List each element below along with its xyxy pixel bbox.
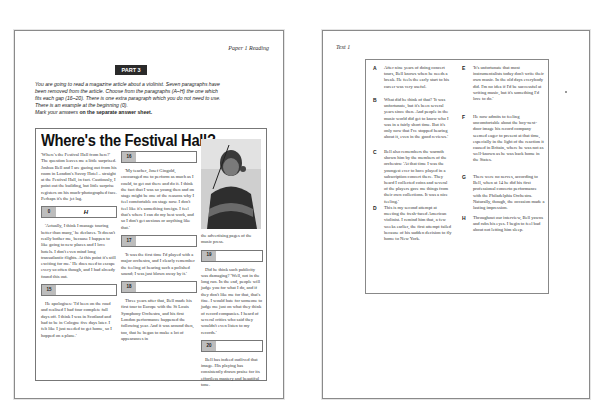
option-H: H Throughout our interview, Bell yawns a…: [473, 215, 545, 234]
option-letter: H: [462, 215, 466, 221]
gap-answer-slot[interactable]: [216, 251, 262, 261]
option-text: There were no nerves, according to Bell,…: [473, 174, 545, 210]
option-A: A After nine years of doing concert tour…: [384, 65, 452, 90]
stray-mark: [565, 91, 567, 93]
article-paragraph: Three years after that, Bell made his fi…: [121, 298, 197, 342]
option-letter: A: [373, 65, 377, 71]
gap-15[interactable]: 15: [41, 284, 117, 296]
gap-answer-slot[interactable]: [136, 152, 196, 162]
article: Where's the Festival Hall? 'Where's the …: [35, 128, 267, 381]
article-paragraph: 'Actually, I think I manage touring bett…: [41, 223, 117, 280]
article-column-2: 16 'My teacher, Josef Gingold, encourage…: [121, 139, 197, 344]
gap-number: 20: [202, 341, 216, 351]
gap-number: 18: [122, 282, 136, 292]
option-D: D This is my second attempt at meeting t…: [384, 205, 452, 242]
gap-answer-slot[interactable]: [136, 236, 196, 246]
gap-20[interactable]: 20: [201, 340, 263, 352]
gap-answer-slot[interactable]: [56, 285, 116, 295]
article-column-1: 'Where's the Festival Hall from here?' T…: [41, 152, 117, 341]
option-letter: B: [373, 97, 377, 103]
gap-answer-slot[interactable]: [136, 282, 196, 292]
option-text: Bell also remembers the warmth shown him…: [384, 149, 448, 204]
instructions: You are going to read a magazine article…: [35, 81, 245, 116]
page-right: Text 1 A After nine years of doing conce…: [322, 30, 590, 399]
article-paragraph: 'My teacher, Josef Gingold, encouraged m…: [121, 168, 197, 231]
option-G: G There were no nerves, according to Bel…: [473, 174, 545, 211]
gap-answer-slot[interactable]: [216, 341, 262, 351]
option-text: Throughout our interview, Bell yawns and…: [473, 215, 543, 232]
option-letter: F: [462, 114, 465, 120]
option-E: E 'It's unfortunate that most instrument…: [473, 65, 545, 102]
part-label: PART 3: [115, 65, 147, 75]
instructions-line: been removed from the article. Choose fr…: [35, 88, 245, 95]
article-paragraph: Did he think such publicity was damaging…: [201, 267, 263, 336]
option-letter: E: [462, 65, 465, 71]
article-paragraph: 'It was the first time I'd played with a…: [121, 252, 197, 277]
violinist-image-icon: [201, 139, 261, 229]
gap-number: 15: [42, 285, 56, 295]
option-letter: C: [373, 149, 377, 155]
instructions-line: There is an example at the beginning (0)…: [35, 102, 245, 109]
article-paragraph: He apologises: 'I'd been on the road and…: [41, 301, 117, 339]
gap-17[interactable]: 17: [121, 235, 197, 247]
option-B: B What did he think of that? 'It was unf…: [384, 97, 452, 140]
instructions-line: Mark your answers on the separate answer…: [35, 109, 245, 116]
option-text: He now admits to feeling uncomfortable a…: [473, 114, 544, 162]
running-head: Text 1: [336, 44, 350, 50]
article-column-3: the advertising pages of the music press…: [201, 233, 263, 390]
instructions-line: You are going to read a magazine article…: [35, 81, 245, 88]
gap-number: 19: [202, 251, 216, 261]
running-head: Paper 1 Reading: [228, 45, 269, 51]
option-text: After nine years of doing concert tours,…: [384, 65, 449, 89]
article-paragraph: 'Where's the Festival Hall from here?' T…: [41, 152, 117, 202]
gap-19[interactable]: 19: [201, 250, 263, 262]
paragraph-options-box: A After nine years of doing concert tour…: [365, 59, 549, 294]
page-left: Paper 1 Reading PART 3 You are going to …: [14, 30, 284, 399]
gap-number: 0: [42, 207, 56, 217]
answer-sheet-note: on the separate answer sheet.: [79, 109, 152, 115]
article-paragraph: Bell has indeed outlived that image. His…: [201, 357, 263, 388]
option-C: C Bell also remembers the warmth shown h…: [384, 149, 452, 205]
gap-answer: H: [56, 207, 116, 217]
gap-16[interactable]: 16: [121, 151, 197, 163]
gap-18[interactable]: 18: [121, 281, 197, 293]
gap-number: 17: [122, 236, 136, 246]
option-text: 'It's unfortunate that most instrumental…: [473, 65, 544, 101]
gap-number: 16: [122, 152, 136, 162]
option-text: What did he think of that? 'It was unfor…: [384, 97, 448, 139]
article-paragraph: the advertising pages of the music press…: [201, 233, 263, 246]
option-F: F He now admits to feeling uncomfortable…: [473, 114, 545, 164]
gap-0-example: 0 H: [41, 206, 117, 218]
option-letter: G: [462, 174, 466, 180]
option-letter: D: [373, 205, 377, 211]
instructions-line: fits each gap (16–20). There is one extr…: [35, 95, 245, 102]
violinist-photo: [201, 139, 261, 229]
option-text: This is my second attempt at meeting the…: [384, 205, 452, 241]
